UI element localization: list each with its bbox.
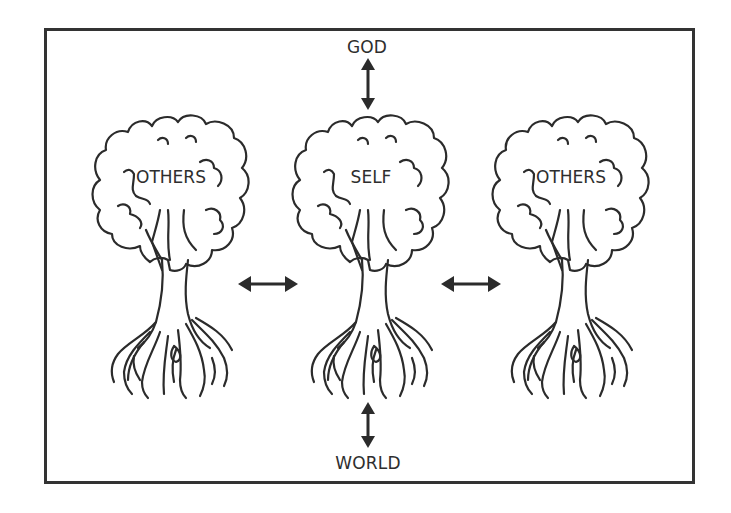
tree-self: SELF xyxy=(288,110,454,400)
tree-others-left: OTHERS xyxy=(88,110,254,400)
tree-icon xyxy=(288,110,454,400)
world-label: WORLD xyxy=(330,453,406,473)
vertical-arrow-world-icon xyxy=(361,402,375,448)
tree-label: SELF xyxy=(288,167,454,187)
tree-label: OTHERS xyxy=(88,167,254,187)
tree-label: OTHERS xyxy=(488,167,654,187)
horizontal-arrow-right-icon xyxy=(441,276,501,292)
vertical-arrow-god-icon xyxy=(361,58,375,110)
god-label: GOD xyxy=(345,37,389,57)
tree-icon xyxy=(488,110,654,400)
horizontal-arrow-left-icon xyxy=(238,276,298,292)
tree-icon xyxy=(88,110,254,400)
tree-others-right: OTHERS xyxy=(488,110,654,400)
